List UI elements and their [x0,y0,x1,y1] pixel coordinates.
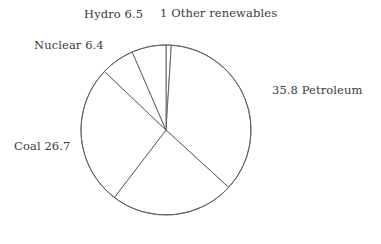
pie-slices-group [81,45,251,215]
pie-label-nuclear: Nuclear 6.4 [34,39,104,52]
pie-label-coal: Coal 26.7 [14,140,70,153]
pie-label-other-renewables: 1 Other renewables [160,7,277,20]
pie-label-petroleum: 35.8 Petroleum [272,84,363,97]
pie-label-hydro: Hydro 6.5 [84,8,143,21]
pie-chart-figure: Hydro 6.5 1 Other renewables Nuclear 6.4… [0,0,381,244]
pie-chart-svg [0,0,381,244]
